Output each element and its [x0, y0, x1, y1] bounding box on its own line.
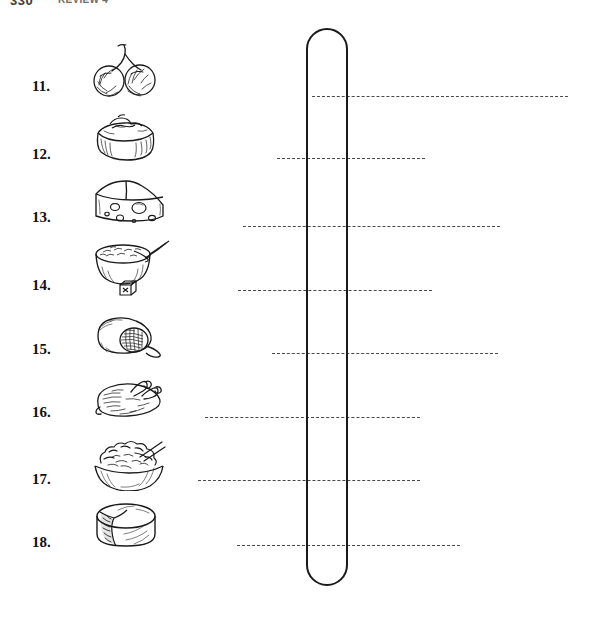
- item-number-12: 12.: [32, 146, 66, 163]
- item-number-11: 11.: [32, 78, 66, 95]
- ham-slice-icon: [90, 310, 168, 362]
- answer-line-11[interactable]: [312, 96, 568, 97]
- swiss-cheese-wedge-icon: [90, 178, 168, 230]
- item-number-18: 18.: [32, 534, 66, 551]
- answer-line-12[interactable]: [277, 158, 425, 159]
- cheese-wheel-icon: [90, 500, 166, 554]
- item-number-14: 14.: [32, 277, 66, 294]
- item-number-13: 13.: [32, 209, 66, 226]
- answer-line-13[interactable]: [243, 226, 500, 227]
- item-number-17: 17.: [32, 471, 66, 488]
- item-number-15: 15.: [32, 341, 66, 358]
- section-label: REVIEW 4: [58, 0, 108, 5]
- roast-chicken-icon: [90, 374, 168, 426]
- answer-column-capsule: [306, 28, 348, 586]
- cereal-bowl-icon: [90, 239, 172, 297]
- answer-line-18[interactable]: [237, 545, 460, 546]
- cake-slice-icon: [90, 113, 160, 165]
- salad-bowl-icon: [88, 435, 170, 491]
- page-number: 330: [10, 0, 33, 8]
- worksheet-page: 330 REVIEW 4 11. 12. 13. 14. 15. 16. 17.…: [0, 0, 591, 619]
- cherries-icon: [88, 42, 160, 104]
- item-number-16: 16.: [32, 404, 66, 421]
- running-header: 330 REVIEW 4: [0, 0, 591, 9]
